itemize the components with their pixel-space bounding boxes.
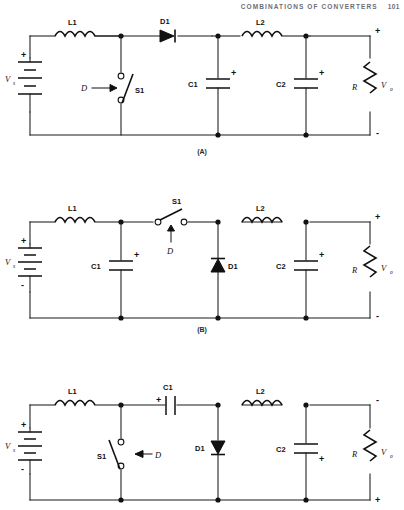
inductor-l1-label: L1 [68,18,77,27]
circuit-figure-c: V s + - L1 S1 D C1 + D1 [0,340,404,510]
source-label-sub: s [13,447,15,453]
junction-node [215,132,220,137]
resistor-r-label: R [351,82,358,92]
output-voltage-label: V [381,80,388,90]
resistor-r: R V o + - [351,212,393,321]
capacitor-c2: C2 + [276,405,324,500]
switch-pin-top [118,73,124,79]
output-voltage-sub: o [390,453,393,459]
capacitor-c1-plus: + [156,395,161,405]
junction-node [303,132,308,137]
capacitor-c1-plus: + [134,250,139,260]
junction-node [215,315,220,320]
junction-node [118,315,123,320]
duty-cycle-annotation-d: D [166,225,175,256]
duty-label: D [80,83,88,93]
resistor-r: R V o - + [351,395,393,505]
resistor-r-label: R [351,449,358,459]
voltage-source-vs: V s + [5,50,42,112]
circuit-figure-b: V s + - L1 C1 + S1 D D1 [0,170,404,340]
circuit-figure-a: V s + L1 S1 D D1 C1 + [0,0,404,170]
source-label-sub: s [13,80,15,86]
inductor-l1: L1 [55,18,95,36]
output-plus-sign: + [375,26,380,36]
source-plus-sign: + [21,50,26,60]
duty-label: D [166,246,174,256]
voltage-source-vs: V s + - [5,236,42,292]
source-label: V [5,441,12,451]
output-minus-sign: - [376,311,379,321]
source-label: V [5,257,12,267]
output-voltage-label: V [381,447,388,457]
junction-node [303,497,308,502]
inductor-l2: L2 [242,204,282,222]
voltage-source-vs: V s + - [5,420,42,474]
output-voltage-sub: o [390,269,393,275]
switch-s1[interactable]: S1 [118,36,144,135]
junction-node [118,497,123,502]
switch-s1[interactable]: S1 [155,197,187,225]
capacitor-c1: C1 + [188,36,236,135]
switch-s1-label: S1 [97,452,106,461]
inductor-l2-label: L2 [256,204,265,213]
capacitor-c1-label: C1 [188,80,198,89]
inductor-l2-label: L2 [256,18,265,27]
capacitor-c1-label: C1 [91,262,101,271]
resistor-r: R V o + - [351,26,393,138]
diode-d1-label: D1 [160,17,170,26]
capacitor-c1: C1 + [91,222,139,318]
inductor-l1: L1 [55,387,95,405]
capacitor-c2-plus: + [319,68,324,78]
capacitor-c2-label: C2 [276,262,286,271]
capacitor-c2-plus: + [319,250,324,260]
output-minus-sign: - [376,395,379,405]
inductor-l1-label: L1 [68,387,77,396]
source-label: V [5,74,12,84]
inductor-l1: L1 [55,204,95,222]
switch-pin-top [118,439,124,445]
capacitor-c1: C1 + [156,383,175,415]
figure-b-caption: (B) [0,326,404,333]
capacitor-c2: C2 + [276,36,324,135]
output-minus-sign: - [376,128,379,138]
source-minus-sign: - [21,464,24,474]
inductor-l2-label: L2 [256,387,265,396]
diode-d1-label: D1 [195,444,205,453]
diode-d1: D1 [160,17,175,43]
source-minus-sign: - [21,280,24,290]
junction-node [303,315,308,320]
capacitor-c2-plus: + [319,454,324,464]
inductor-l1-label: L1 [68,204,77,213]
resistor-r-label: R [351,265,358,275]
capacitor-c1-plus: + [231,68,236,78]
capacitor-c2-label: C2 [276,80,286,89]
duty-cycle-annotation-d: D [80,83,117,93]
switch-s1[interactable]: S1 [97,405,124,500]
switch-pin-right [181,219,187,225]
source-plus-sign: + [21,236,26,246]
source-label-sub: s [13,263,15,269]
duty-cycle-annotation-d: D [135,450,162,460]
output-voltage-sub: o [390,86,393,92]
output-voltage-label: V [381,263,388,273]
figure-a-caption: (A) [0,148,404,155]
capacitor-c1-label: C1 [163,383,173,392]
diode-d1: D1 [195,405,225,500]
capacitor-c2: C2 + [276,222,324,318]
switch-s1-label: S1 [135,86,144,95]
inductor-l2: L2 [242,387,282,405]
output-plus-sign: + [375,212,380,222]
inductor-l2: L2 [242,18,282,36]
capacitor-c2-label: C2 [276,445,286,454]
junction-node [215,497,220,502]
source-plus-sign: + [21,420,26,430]
switch-s1-label: S1 [172,197,181,206]
diode-d1: D1 [211,222,238,318]
diode-d1-label: D1 [228,262,238,271]
duty-label: D [154,450,162,460]
output-plus-sign: + [375,495,380,505]
